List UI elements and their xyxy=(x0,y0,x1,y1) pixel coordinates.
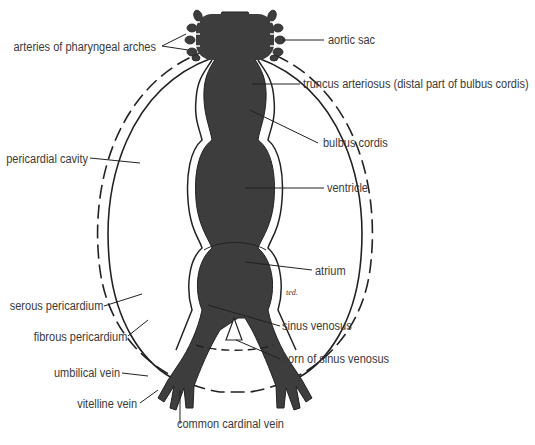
label-common-cardinal-vein: common cardinal vein xyxy=(177,417,284,431)
label-vitelline-vein: vitelline vein xyxy=(77,397,137,411)
label-bulbus-cordis: bulbus cordis xyxy=(323,136,388,150)
label-serous-pericardium: serous pericardium xyxy=(9,299,103,313)
label-ventricle: ventricle xyxy=(327,181,368,195)
label-arteries-of-pharyngeal-arches: arteries of pharyngeal arches xyxy=(14,40,156,54)
label-sinus-venosus: sinus venosus xyxy=(282,319,352,333)
artist-signature: ted. xyxy=(286,288,298,297)
label-pericardial-cavity: pericardial cavity xyxy=(6,152,88,166)
aortic-sac xyxy=(196,14,274,60)
label-umbilical-vein: umbilical vein xyxy=(54,366,120,380)
label-fibrous-pericardium: fibrous pericardium xyxy=(33,330,127,344)
label-atrium: atrium xyxy=(315,264,346,278)
label-truncus-arteriosus: truncus arteriosus (distal part of bulbu… xyxy=(303,77,529,91)
label-horn-of-sinus-venosus: horn of sinus venosus xyxy=(282,352,389,366)
label-aortic-sac: aortic sac xyxy=(328,33,375,47)
